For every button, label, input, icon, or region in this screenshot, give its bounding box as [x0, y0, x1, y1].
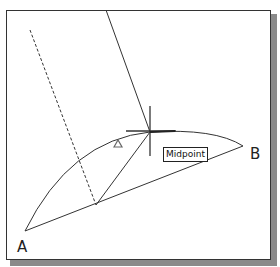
point-a-label: A — [17, 238, 27, 256]
chord-a-b — [25, 146, 243, 231]
delta-marker-icon — [114, 140, 122, 147]
line-from-top — [106, 10, 150, 132]
dashed-construction-line — [30, 30, 96, 205]
line-to-midpoint — [96, 132, 150, 205]
midpoint-tooltip: Midpoint — [163, 147, 208, 162]
diagram-svg — [0, 0, 280, 267]
arc-a-to-b — [25, 131, 243, 231]
point-b-label: B — [250, 145, 260, 163]
